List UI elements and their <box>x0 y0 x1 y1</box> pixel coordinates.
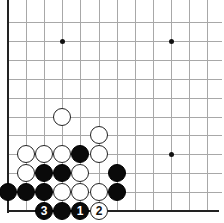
black-stone[interactable] <box>35 183 53 201</box>
grid-line-horizontal <box>8 98 222 99</box>
grid-line-vertical <box>171 0 172 211</box>
grid-line-horizontal <box>8 22 222 23</box>
move-number-label: 3 <box>41 205 48 217</box>
go-board[interactable]: 312 <box>0 0 224 223</box>
grid-line-horizontal <box>8 117 222 118</box>
black-stone[interactable] <box>71 145 89 163</box>
black-stone[interactable] <box>0 183 17 201</box>
grid-line-vertical <box>153 0 154 211</box>
white-stone[interactable] <box>90 145 108 163</box>
star-point-icon <box>169 152 174 157</box>
white-stone[interactable] <box>35 145 53 163</box>
white-stone[interactable] <box>53 145 71 163</box>
move-number-label: 1 <box>77 205 84 217</box>
star-point-icon <box>169 39 174 44</box>
grid-line-vertical <box>135 0 136 211</box>
black-stone[interactable] <box>17 183 35 201</box>
black-stone[interactable] <box>53 202 71 220</box>
white-stone[interactable] <box>71 183 89 201</box>
white-stone[interactable] <box>71 164 89 182</box>
board-edge-left <box>7 0 9 213</box>
star-point-icon <box>60 39 65 44</box>
black-stone[interactable] <box>53 164 71 182</box>
grid-line-horizontal <box>8 79 222 80</box>
white-stone[interactable] <box>90 126 108 144</box>
white-stone[interactable] <box>17 145 35 163</box>
grid-line-vertical <box>99 0 100 211</box>
black-stone-move-1[interactable]: 1 <box>71 202 89 220</box>
white-stone-move-2[interactable]: 2 <box>90 202 108 220</box>
grid-line-vertical <box>189 0 190 211</box>
white-stone[interactable] <box>53 108 71 126</box>
white-stone[interactable] <box>90 183 108 201</box>
black-stone[interactable] <box>108 164 126 182</box>
move-number-label: 2 <box>96 205 103 217</box>
black-stone[interactable] <box>35 164 53 182</box>
black-stone-move-3[interactable]: 3 <box>35 202 53 220</box>
grid-line-vertical <box>207 0 208 211</box>
white-stone[interactable] <box>17 164 35 182</box>
grid-line-horizontal <box>8 41 222 42</box>
grid-line-horizontal <box>8 60 222 61</box>
grid-line-horizontal <box>8 135 222 136</box>
white-stone[interactable] <box>53 183 71 201</box>
black-stone[interactable] <box>108 183 126 201</box>
